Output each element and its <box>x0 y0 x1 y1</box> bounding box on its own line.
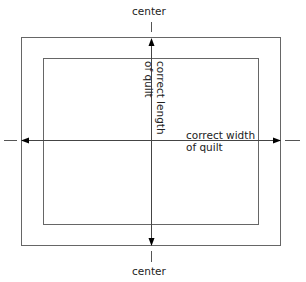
length-label-line2: of quilt <box>143 61 155 135</box>
width-label: correct width of quilt <box>186 129 255 153</box>
length-label: correct length of quilt <box>143 61 167 135</box>
diagram-graphic <box>0 0 306 282</box>
quilt-measurement-diagram: center center correct width of quilt cor… <box>0 0 306 282</box>
width-label-line1: correct width <box>186 129 255 141</box>
length-label-line1: correct length <box>155 61 167 135</box>
center-label-top: center <box>132 6 166 17</box>
width-label-line2: of quilt <box>186 141 255 153</box>
center-label-bottom: center <box>132 266 166 277</box>
